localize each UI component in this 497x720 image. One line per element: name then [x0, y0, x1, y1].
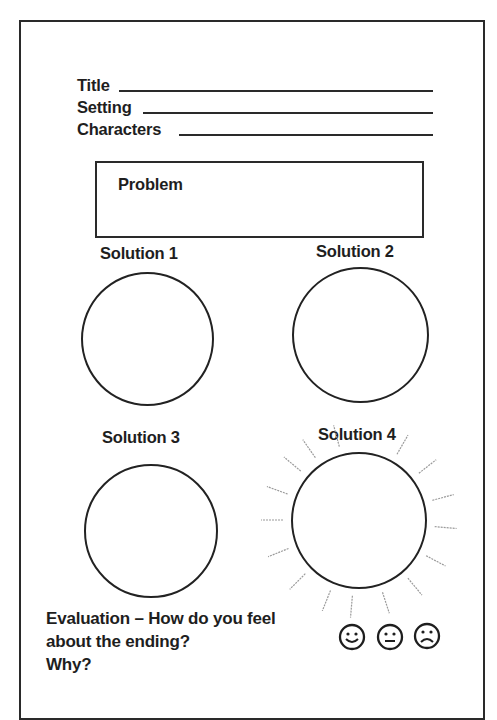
evaluation-question-line3: Why? — [46, 656, 91, 674]
solution-2-circle[interactable] — [292, 267, 429, 403]
solution-4-circle[interactable] — [291, 452, 427, 589]
evaluation-question-line1: Evaluation – How do you feel — [46, 610, 276, 628]
neutral-face-icon[interactable] — [376, 623, 404, 651]
sad-face-icon[interactable] — [413, 622, 441, 650]
solution-3-circle[interactable] — [84, 464, 218, 598]
solution-1-circle[interactable] — [81, 272, 214, 406]
happy-face-icon[interactable] — [338, 623, 366, 651]
evaluation-question-line2: about the ending? — [46, 633, 190, 651]
